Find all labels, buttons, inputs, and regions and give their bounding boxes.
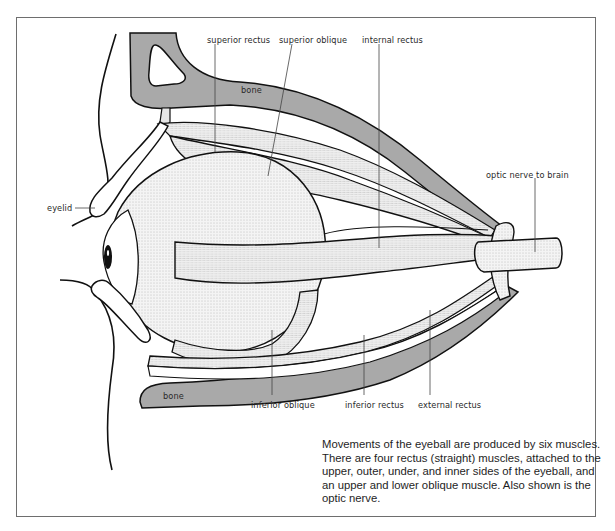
label-superior-rectus: superior rectus (207, 35, 270, 45)
label-inferior-oblique: inferior oblique (251, 400, 315, 410)
label-eyelid: eyelid (47, 203, 72, 213)
label-bone-bottom: bone (163, 391, 184, 401)
label-bone-top: bone (241, 85, 262, 95)
label-internal-rectus: internal rectus (362, 35, 423, 45)
face-profile-lower (60, 280, 114, 470)
label-inferior-rectus: inferior rectus (345, 400, 404, 410)
pupil (104, 245, 112, 269)
optic-nerve (475, 238, 562, 272)
label-superior-oblique: superior oblique (279, 35, 347, 45)
label-external-rectus: external rectus (418, 400, 481, 410)
figure-caption: Movements of the eyeball are produced by… (322, 438, 602, 506)
label-optic-nerve: optic nerve to brain (486, 170, 569, 180)
